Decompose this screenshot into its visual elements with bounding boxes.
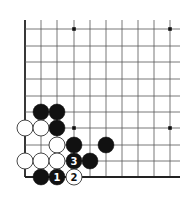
- go-board-diagram: 312: [0, 0, 189, 198]
- white-stone-icon: [17, 153, 33, 169]
- white-stone: [17, 153, 33, 169]
- black-stone-icon: [33, 169, 49, 185]
- white-stone-icon: [49, 137, 65, 153]
- white-stone-icon: [33, 120, 49, 136]
- black-stone-move-3: 3: [66, 153, 82, 169]
- white-stone: [33, 153, 49, 169]
- white-stone-icon: [33, 153, 49, 169]
- black-stone-icon: [82, 153, 98, 169]
- black-stone-icon: [66, 137, 82, 153]
- black-stone: [82, 153, 98, 169]
- white-stone-icon: [17, 120, 33, 136]
- black-stone: [49, 120, 65, 136]
- hoshi-point-icon: [168, 126, 172, 130]
- black-stone: [33, 104, 49, 120]
- white-stone: [17, 120, 33, 136]
- white-stone: [33, 120, 49, 136]
- black-stone: [49, 104, 65, 120]
- white-stone-move-2: 2: [66, 169, 82, 185]
- move-number-label: 2: [71, 172, 78, 183]
- black-stone-icon: [49, 120, 65, 136]
- white-stone: [49, 137, 65, 153]
- white-stone: [49, 153, 65, 169]
- black-stone: [66, 137, 82, 153]
- hoshi-point-icon: [168, 27, 172, 31]
- hoshi-point-icon: [72, 126, 76, 130]
- move-number-label: 3: [71, 156, 78, 167]
- black-stone-icon: [33, 104, 49, 120]
- black-stone-icon: [49, 104, 65, 120]
- hoshi-point-icon: [72, 27, 76, 31]
- black-stone: [33, 169, 49, 185]
- black-stone-icon: [98, 137, 114, 153]
- white-stone-icon: [49, 153, 65, 169]
- black-stone-move-1: 1: [49, 169, 65, 185]
- move-number-label: 1: [54, 172, 61, 183]
- black-stone: [98, 137, 114, 153]
